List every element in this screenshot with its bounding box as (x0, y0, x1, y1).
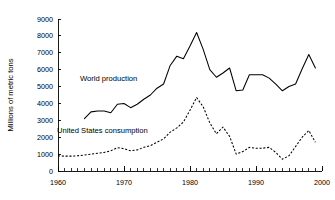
y-tick-label: 9000 (37, 15, 53, 24)
y-tick-label: 0 (49, 167, 53, 176)
y-tick-label: 7000 (37, 48, 53, 57)
y-tick-label: 8000 (37, 31, 53, 40)
x-tick-label: 1990 (248, 178, 264, 187)
y-tick-label: 5000 (37, 82, 53, 91)
y-tick-label: 6000 (37, 65, 53, 74)
y-tick-label: 1000 (37, 150, 53, 159)
series-lines (58, 33, 315, 160)
series-label-world-production: World production (80, 74, 137, 83)
x-tick-label: 1980 (182, 178, 198, 187)
y-axis-ticks (58, 19, 61, 171)
y-axis-tick-labels: 0100020003000400050006000700080009000 (37, 15, 53, 176)
y-axis-title: Millions of metric tons (6, 58, 15, 131)
x-tick-label: 2000 (314, 178, 330, 187)
y-tick-label: 3000 (37, 116, 53, 125)
x-tick-label: 1970 (116, 178, 132, 187)
chart-canvas: 0100020003000400050006000700080009000 19… (0, 0, 335, 200)
y-axis: 0100020003000400050006000700080009000 (37, 15, 61, 176)
y-tick-label: 4000 (37, 99, 53, 108)
x-axis: 19601970198019902000 (50, 166, 330, 188)
y-tick-label: 2000 (37, 133, 53, 142)
series-label-us-consumption: United States consumption (57, 126, 148, 135)
x-axis-tick-labels: 19601970198019902000 (50, 178, 330, 187)
chart-figure: 0100020003000400050006000700080009000 19… (0, 0, 335, 200)
x-tick-label: 1960 (50, 178, 66, 187)
